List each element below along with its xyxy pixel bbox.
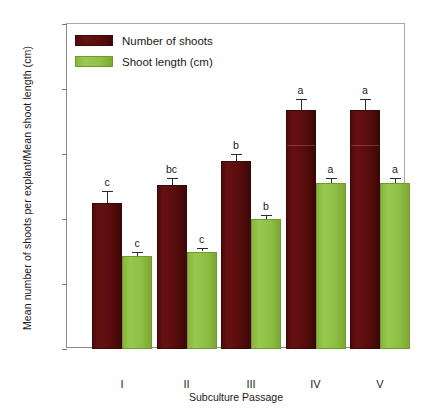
x-tick-label: IV <box>286 378 346 390</box>
y-tick-mark <box>62 349 67 350</box>
y-tick-mark <box>62 154 67 155</box>
y-tick-mark <box>62 284 67 285</box>
error-bar <box>365 99 366 110</box>
error-bar-cap <box>197 248 208 249</box>
x-tick-label: V <box>350 378 410 390</box>
bar-number-of-shoots-IV <box>286 110 316 349</box>
bar-seam <box>287 145 315 146</box>
legend-item-number-of-shoots: Number of shoots <box>75 32 213 49</box>
error-bar-cap <box>360 99 371 100</box>
y-axis-title: Mean number of shoots per explant/Mean s… <box>21 18 33 358</box>
x-tick-label: III <box>221 378 281 390</box>
bar-number-of-shoots-II <box>157 185 187 349</box>
bar-shoot-length-V <box>380 183 410 349</box>
error-bar-cap <box>167 178 178 179</box>
error-bar-cap <box>390 178 401 179</box>
legend-item-shoot-length: Shoot length (cm) <box>75 53 213 70</box>
bar-shoot-length-III <box>251 219 281 349</box>
y-tick-mark <box>62 24 67 25</box>
significance-letter: bc <box>152 163 192 175</box>
legend-label: Shoot length (cm) <box>122 56 213 68</box>
bar-seam <box>351 145 379 146</box>
x-tick-label: II <box>157 378 217 390</box>
significance-letter: a <box>281 84 321 96</box>
significance-letter: c <box>117 237 157 249</box>
significance-letter: a <box>311 163 351 175</box>
x-tick-label: I <box>92 378 152 390</box>
y-tick-mark <box>62 89 67 90</box>
error-bar-cap <box>102 191 113 192</box>
y-tick-mark <box>62 219 67 220</box>
error-bar-cap <box>132 252 143 253</box>
error-bar-cap <box>326 178 337 179</box>
bar-number-of-shoots-III <box>221 161 251 350</box>
significance-letter: b <box>246 200 286 212</box>
error-bar-cap <box>231 154 242 155</box>
plot-area: Number of shoots Shoot length (cm) 02468… <box>66 23 405 348</box>
error-bar <box>301 99 302 110</box>
bar-shoot-length-I <box>122 256 152 349</box>
error-bar-cap <box>296 99 307 100</box>
olive-green-swatch <box>75 56 113 67</box>
chart-legend: Number of shoots Shoot length (cm) <box>75 32 213 74</box>
significance-letter: b <box>216 139 256 151</box>
bar-shoot-length-IV <box>316 183 346 349</box>
significance-letter: a <box>345 84 385 96</box>
dark-maroon-swatch <box>75 35 113 46</box>
significance-letter: c <box>182 233 222 245</box>
bar-shoot-length-II <box>187 252 217 350</box>
bar-number-of-shoots-I <box>92 203 122 349</box>
bar-number-of-shoots-V <box>350 110 380 349</box>
legend-label: Number of shoots <box>122 35 213 47</box>
error-bar <box>107 191 108 202</box>
x-axis-title: Subculture Passage <box>66 391 406 403</box>
significance-letter: a <box>375 163 415 175</box>
bar-chart-figure: Mean number of shoots per explant/Mean s… <box>0 0 423 420</box>
significance-letter: c <box>87 176 127 188</box>
error-bar-cap <box>261 215 272 216</box>
